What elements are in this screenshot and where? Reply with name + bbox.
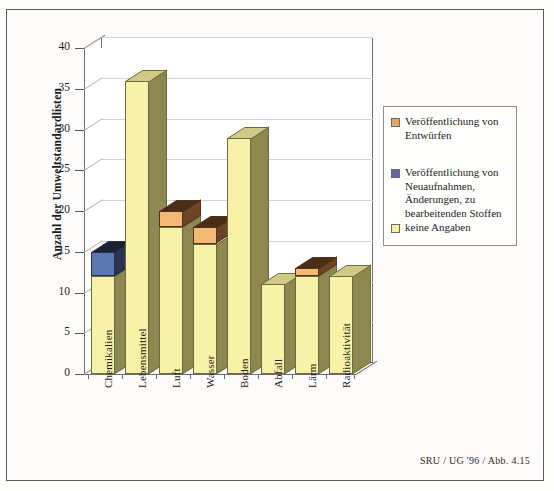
legend-item-label: keine Angaben [405, 221, 471, 235]
bar-face [159, 227, 183, 374]
bar-segment [91, 252, 115, 276]
legend-swatch-icon [391, 224, 400, 233]
bar-top [193, 216, 217, 227]
bar-top [125, 70, 149, 81]
x-tick [292, 374, 293, 379]
x-axis-label: Radioaktivität [340, 323, 352, 388]
y-tick-label: 35 [44, 81, 70, 93]
bar-column[interactable] [125, 48, 149, 374]
y-tick [75, 170, 84, 171]
legend-item-entwuerfe[interactable]: Veröffentlichung von Entwürfen [391, 115, 510, 142]
bar-top [91, 241, 115, 252]
bar-column[interactable] [295, 48, 319, 374]
y-tick [75, 374, 84, 375]
source-caption: SRU / UG '96 / Abb. 4.15 [420, 455, 530, 466]
x-tick [156, 374, 157, 379]
y-tick-label: 25 [44, 162, 70, 174]
x-tick [354, 374, 355, 379]
x-axis-label: Luft [170, 368, 182, 388]
legend-swatch-icon [391, 118, 400, 127]
y-tick [75, 211, 84, 212]
bar-segment [193, 227, 217, 243]
bar-top [329, 265, 353, 276]
y-tick [75, 333, 84, 334]
y-tick-label: 30 [44, 122, 70, 134]
y-tick [75, 48, 84, 49]
legend-item-keine-angaben[interactable]: keine Angaben [391, 221, 510, 235]
x-axis-label: Chemikalien [102, 330, 114, 388]
bar-column[interactable] [159, 48, 183, 374]
bar-face [193, 227, 217, 243]
legend-swatch-icon [391, 169, 400, 178]
bar-column[interactable] [193, 48, 217, 374]
x-axis-label: Boden [238, 358, 250, 388]
x-tick [122, 374, 123, 379]
y-tick-label: 20 [44, 203, 70, 215]
legend-item-label: Veröffentlichung von Entwürfen [405, 115, 510, 142]
bar-face [295, 276, 319, 374]
figure-root: Anzahl der Umweltstandardlisten 05101520… [0, 0, 554, 491]
bar-segment [295, 268, 319, 276]
legend-item-label: Veröffentlichung von Neuaufnahmen, Änder… [405, 166, 510, 220]
bar-face [159, 211, 183, 227]
bar-column[interactable] [91, 48, 115, 374]
bar-segment [295, 276, 319, 374]
y-tick-label: 5 [44, 325, 70, 337]
bar-top [295, 257, 319, 268]
x-tick [88, 374, 89, 379]
x-axis-label: Wasser [204, 355, 216, 388]
bar-top [159, 200, 183, 211]
bar-segment [159, 227, 183, 374]
y-tick-label: 0 [44, 366, 70, 378]
y-tick-label: 15 [44, 244, 70, 256]
bar-top [261, 273, 285, 284]
x-axis-label: Lebensmittel [136, 328, 148, 388]
bar-face [91, 252, 115, 276]
gridline [101, 37, 373, 38]
bar-segment [227, 138, 251, 374]
legend: Veröffentlichung von Entwürfen Veröffent… [383, 106, 517, 246]
y-tick-label: 40 [44, 40, 70, 52]
x-tick [224, 374, 225, 379]
x-tick [190, 374, 191, 379]
bar-column[interactable] [227, 48, 251, 374]
plot-area: 0510152025303540 ChemikalienLebensmittel… [84, 48, 356, 374]
x-axis-label: Abfall [272, 359, 284, 388]
x-axis-label: Lärm [306, 363, 318, 388]
legend-item-neuaufnahmen[interactable]: Veröffentlichung von Neuaufnahmen, Änder… [391, 166, 510, 220]
bar-side [353, 265, 371, 374]
x-tick [326, 374, 327, 379]
y-tick-label: 10 [44, 285, 70, 297]
bar-face [227, 138, 251, 374]
bar-column[interactable] [261, 48, 285, 374]
x-tick [258, 374, 259, 379]
bar-segment [159, 211, 183, 227]
bar-top [227, 127, 251, 138]
